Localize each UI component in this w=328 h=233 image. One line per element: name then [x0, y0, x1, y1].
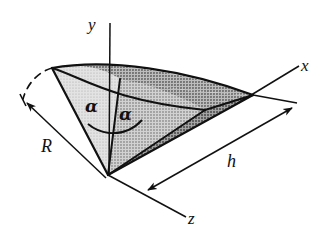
cone-rim-back-dashed	[23, 68, 52, 99]
angle-label-alpha-left: α	[85, 98, 98, 115]
dimension-label-height: h	[227, 152, 236, 170]
angle-label-alpha-right: α	[119, 106, 132, 123]
cone-figure: y x z R h α α	[0, 0, 328, 233]
dimension-label-radius: R	[41, 137, 52, 155]
y-axis-line	[109, 23, 110, 176]
radius-dimension-tick	[20, 94, 26, 106]
height-projection-line	[253, 95, 297, 103]
z-axis-line	[108, 175, 186, 217]
cone-diagram-canvas	[0, 0, 328, 233]
axis-label-y: y	[88, 16, 96, 33]
axis-label-x: x	[301, 57, 309, 74]
axis-label-z: z	[188, 210, 195, 227]
